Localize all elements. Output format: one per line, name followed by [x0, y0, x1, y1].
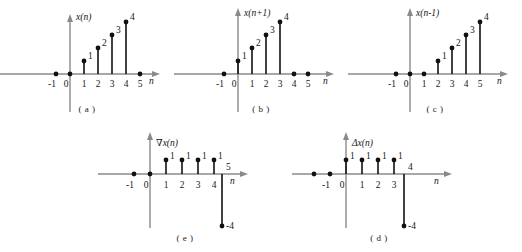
tick-label: 3: [450, 79, 455, 89]
data-point: [392, 158, 397, 163]
x-axis-title: n: [434, 176, 439, 186]
value-label: 1: [170, 151, 175, 161]
y-axis-arrow: [67, 14, 73, 22]
x-axis-title: n: [149, 76, 154, 86]
tick-label: 5: [306, 79, 311, 89]
value-label: 3: [270, 25, 275, 35]
panel-caption-a: ( a ): [0, 104, 174, 114]
value-label: 1: [398, 151, 403, 161]
data-point: [360, 158, 365, 163]
value-label: 2: [456, 38, 461, 48]
panel-d: Δx(n) n 1 1 1 1 -4 4 -1 0 1 2 3: [292, 126, 466, 252]
value-label: 4: [130, 12, 135, 22]
value-label: 3: [116, 25, 121, 35]
panel-b: x(n+1) n 1 2 3 4 -1 0 1 2 3 4 5 ( b: [174, 0, 348, 126]
tick-label: 2: [376, 180, 381, 190]
data-point: [222, 72, 227, 77]
data-point: [408, 72, 413, 77]
figure-container: x(n) n 1 2 3 4 -1 0 1 2 3 4: [0, 0, 522, 252]
panel-caption-b: ( b ): [174, 104, 348, 114]
value-label: 1: [442, 51, 447, 61]
tick-label: 1: [250, 79, 255, 89]
tick-label: 3: [392, 180, 397, 190]
value-label: 1: [366, 151, 371, 161]
x-axis-arrow: [240, 171, 248, 177]
data-point: [376, 158, 381, 163]
tick-label: 2: [180, 180, 185, 190]
data-point: [402, 224, 407, 229]
data-point: [132, 172, 137, 177]
data-point: [68, 72, 73, 77]
data-point: [278, 20, 283, 25]
tick-label: 4: [408, 162, 413, 172]
panel-caption-e: ( e ): [98, 233, 272, 243]
tick-label: -1: [388, 79, 396, 89]
tick-label: 0: [64, 79, 69, 89]
panel-a: x(n) n 1 2 3 4 -1 0 1 2 3 4: [0, 0, 174, 126]
data-point: [212, 158, 217, 163]
y-axis-arrow: [407, 8, 413, 16]
tick-label: -1: [48, 79, 56, 89]
data-point: [306, 72, 311, 77]
data-point: [394, 72, 399, 77]
tick-label: 0: [232, 79, 237, 89]
value-label: 1: [186, 151, 191, 161]
tick-label: 1: [164, 180, 169, 190]
value-label: 4: [484, 12, 489, 22]
tick-label: 1: [82, 79, 87, 89]
tick-label: 2: [264, 79, 269, 89]
data-point: [328, 172, 333, 177]
tick-label: 1: [360, 180, 365, 190]
y-axis-arrow: [147, 132, 153, 140]
tick-label: -1: [322, 180, 330, 190]
y-axis-title: x(n+1): [243, 8, 270, 19]
x-axis-arrow: [444, 171, 452, 177]
value-label: 1: [382, 151, 387, 161]
data-point: [450, 46, 455, 51]
tick-label: 3: [278, 79, 283, 89]
data-point: [110, 33, 115, 38]
x-axis-title: n: [497, 76, 502, 86]
value-label: 1: [202, 151, 207, 161]
tick-label: 3: [110, 79, 115, 89]
y-axis-title: x(n-1): [415, 8, 439, 19]
data-point: [138, 72, 143, 77]
value-label: 2: [102, 38, 107, 48]
value-label: 3: [470, 25, 475, 35]
tick-label: 5: [478, 79, 483, 89]
y-axis-title: ∇x(n): [156, 138, 178, 149]
data-point: [292, 72, 297, 77]
y-axis-title: Δx(n): [351, 138, 373, 149]
data-point: [464, 33, 469, 38]
tick-label: 0: [144, 180, 149, 190]
x-axis-title: n: [323, 76, 328, 86]
data-point: [196, 158, 201, 163]
tick-label: 2: [436, 79, 441, 89]
value-label: 1: [88, 51, 93, 61]
tick-label: 1: [422, 79, 427, 89]
data-point: [180, 158, 185, 163]
data-point: [236, 59, 241, 64]
panel-caption-c: ( c ): [348, 104, 522, 114]
value-label: 1: [218, 151, 223, 161]
data-point: [250, 46, 255, 51]
data-point: [148, 172, 153, 177]
data-point: [478, 20, 483, 25]
value-label: -4: [408, 221, 416, 231]
tick-label: 5: [226, 162, 231, 172]
value-label: 1: [350, 151, 355, 161]
y-axis-arrow: [343, 132, 349, 140]
value-label: 1: [242, 51, 247, 61]
data-point: [436, 59, 441, 64]
tick-label: 4: [292, 79, 297, 89]
tick-label: 0: [340, 180, 345, 190]
data-point: [164, 158, 169, 163]
panel-c: x(n-1) n 1 2 3 4 -1 0 1 2 3 4 5 ( c: [348, 0, 522, 126]
value-label: -4: [226, 221, 234, 231]
data-point: [220, 224, 225, 229]
tick-label: 4: [464, 79, 469, 89]
data-point: [344, 158, 349, 163]
value-label: 2: [256, 38, 261, 48]
x-axis-title: n: [230, 176, 235, 186]
data-point: [96, 46, 101, 51]
